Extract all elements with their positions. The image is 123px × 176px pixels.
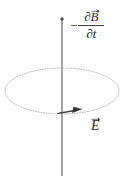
partial-derivative-fraction: ∂B ∂t — [78, 10, 104, 40]
fraction-numerator: ∂B — [83, 10, 99, 24]
figure-canvas — [0, 0, 123, 176]
time-variable: t — [93, 26, 97, 41]
b-symbol: B — [91, 10, 99, 24]
minus-sign: − — [70, 19, 77, 32]
b-field-vector: B — [91, 10, 99, 24]
flux-rate-label: − ∂B ∂t — [70, 10, 104, 40]
axis-top-cap-dot — [60, 17, 63, 20]
electric-field-label: E — [91, 119, 100, 133]
e-symbol: E — [91, 119, 100, 133]
e-field-vector: E — [91, 119, 100, 133]
fraction-denominator: ∂t — [85, 27, 97, 41]
faraday-induction-figure: − ∂B ∂t E — [0, 0, 123, 176]
